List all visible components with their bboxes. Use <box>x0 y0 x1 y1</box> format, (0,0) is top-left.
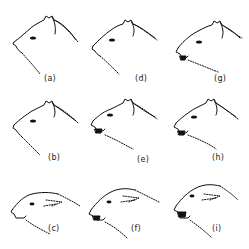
panel-label: (d) <box>135 74 147 83</box>
panel-label: (g) <box>214 74 226 83</box>
panel-h: (h) <box>166 83 249 166</box>
panel-a: (a) <box>0 0 83 83</box>
panel-label: (c) <box>48 224 60 233</box>
head-drawing-d <box>83 0 166 83</box>
panel-i: (i) <box>166 166 249 249</box>
panel-label: (f) <box>131 224 141 233</box>
head-drawing-g <box>166 0 249 83</box>
head-drawing-a <box>0 0 83 83</box>
panel-label: (i) <box>212 224 221 233</box>
panel-b: (b) <box>0 83 83 166</box>
head-drawing-i <box>166 166 249 249</box>
panel-label: (b) <box>48 153 60 162</box>
head-drawing-b <box>0 83 83 166</box>
panel-d: (d) <box>83 0 166 83</box>
panel-f: (f) <box>83 166 166 249</box>
head-drawing-c <box>0 166 83 249</box>
panel-label: (e) <box>137 155 149 164</box>
panel-label: (h) <box>212 153 224 162</box>
head-drawing-h <box>166 83 249 166</box>
panel-g: (g) <box>166 0 249 83</box>
head-drawing-f <box>83 166 166 249</box>
panel-label: (a) <box>44 74 56 83</box>
head-drawing-e <box>83 83 166 166</box>
panel-e: (e) <box>83 83 166 166</box>
panel-c: (c) <box>0 166 83 249</box>
